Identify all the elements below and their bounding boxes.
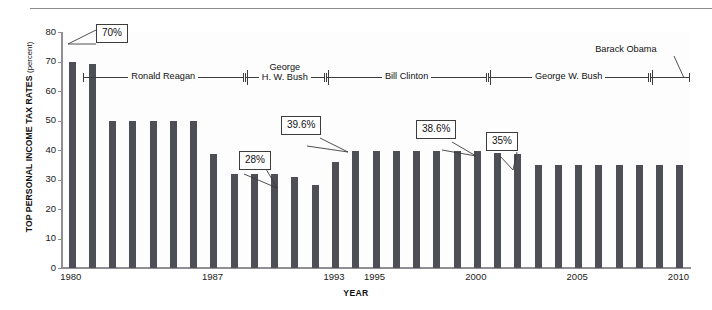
callout-396: 39.6% (281, 116, 321, 135)
callout-28: 28% (239, 151, 271, 170)
figure-root: TOP PERSONAL INCOME TAX RATES (percent) … (0, 0, 712, 310)
callout-386: 38.6% (416, 120, 456, 139)
callout-35: 35% (486, 132, 518, 151)
callout-leader-lines (0, 0, 712, 310)
callout-70: 70% (96, 24, 128, 43)
